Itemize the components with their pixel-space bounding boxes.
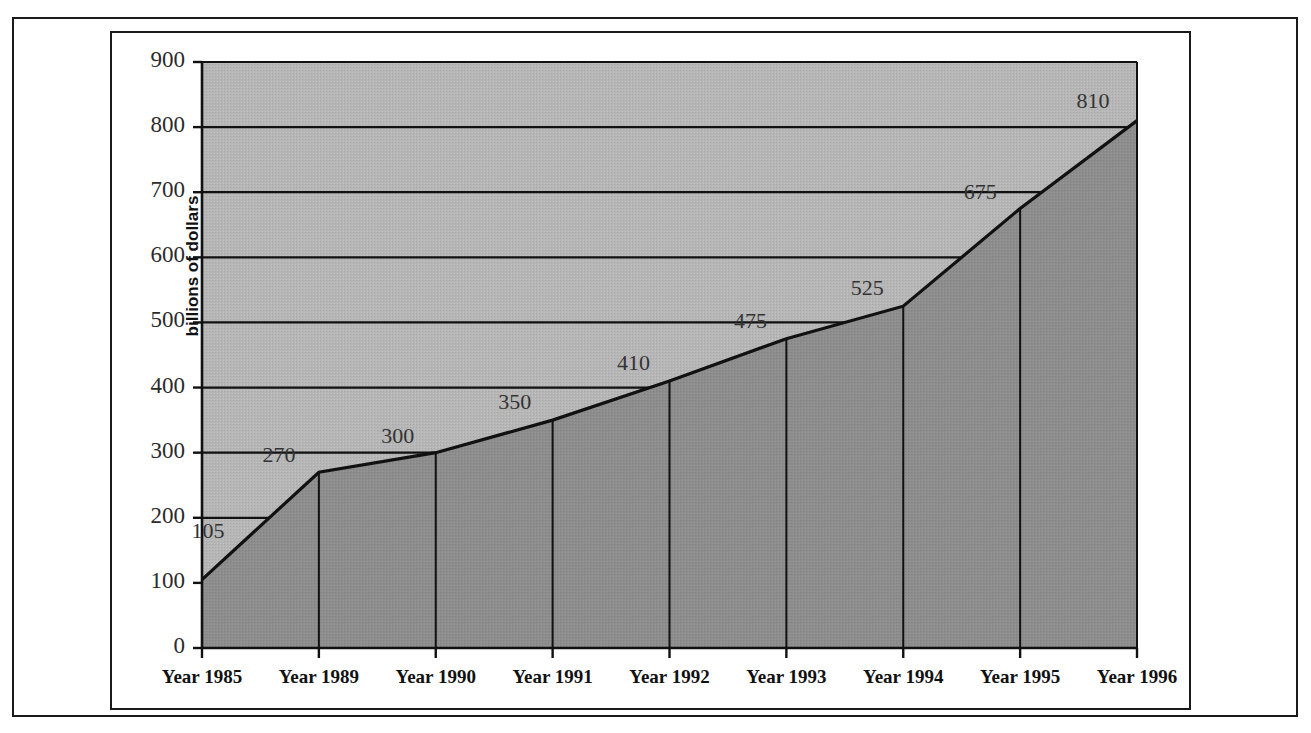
- y-tick-label: 800: [115, 112, 185, 138]
- data-point-label: 410: [599, 350, 669, 376]
- data-point-label: 810: [1058, 88, 1128, 114]
- data-point-label: 300: [363, 423, 433, 449]
- x-tick-label: Year 1996: [1057, 666, 1217, 688]
- y-tick-label: 100: [115, 568, 185, 594]
- data-point-label: 350: [480, 389, 550, 415]
- y-axis-title: billions of dollars: [183, 151, 203, 381]
- y-tick-label: 900: [115, 47, 185, 73]
- data-point-label: 675: [945, 179, 1015, 205]
- y-tick-label: 700: [115, 177, 185, 203]
- y-tick-label: 600: [115, 242, 185, 268]
- data-point-label: 475: [715, 308, 785, 334]
- data-point-label: 525: [832, 275, 902, 301]
- y-tick-label: 0: [115, 633, 185, 659]
- x-axis-tick-marks: [202, 648, 1137, 658]
- data-point-label: 105: [173, 518, 243, 544]
- data-point-label: 270: [244, 442, 314, 468]
- chart-page: billions of dollars 01002003004005006007…: [0, 0, 1311, 733]
- y-tick-label: 300: [115, 438, 185, 464]
- y-tick-label: 500: [115, 307, 185, 333]
- y-tick-label: 400: [115, 373, 185, 399]
- chart-plot-container: billions of dollars 01002003004005006007…: [110, 31, 1191, 710]
